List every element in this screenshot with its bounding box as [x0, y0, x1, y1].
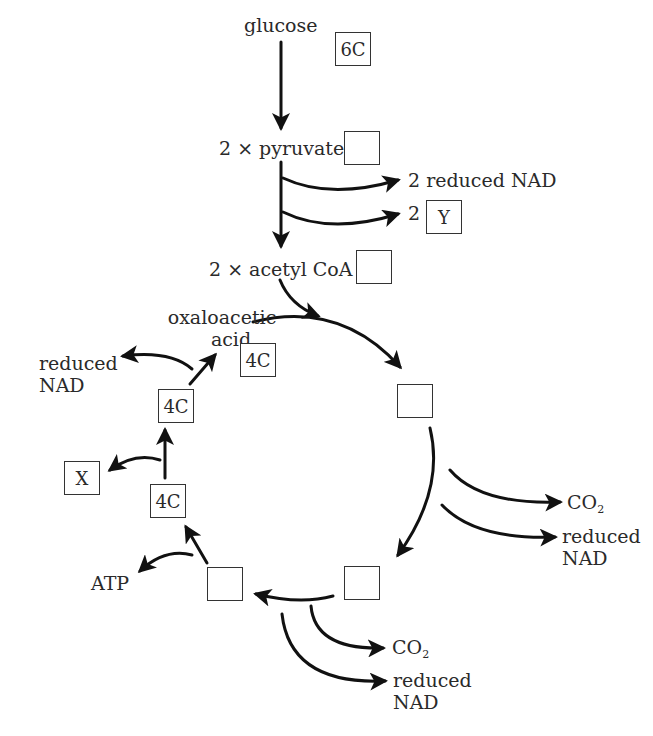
arrow-to-lower-4c [186, 527, 207, 563]
arrow-to-atp [140, 553, 192, 571]
acetyl-coa-label: 2 × acetyl CoA [209, 258, 352, 280]
x-box: X [64, 461, 100, 495]
pyruvate-carbon-box[interactable] [344, 131, 380, 165]
arrow-to-y [283, 212, 398, 224]
arrow-cycle-bottom [256, 594, 333, 600]
link-y-prefix: 2 [408, 202, 420, 224]
pyruvate-label: 2 × pyruvate [219, 137, 344, 159]
bottom-nad-line1: reduced [393, 669, 472, 691]
bottom-reduced-nad-label: reduced NAD [393, 669, 472, 713]
cycle-bottom-left-box[interactable] [207, 567, 243, 601]
arrow-bottom-co2 [311, 606, 383, 648]
right-reduced-nad-label: reduced NAD [562, 525, 641, 569]
right-nad-line1: reduced [562, 525, 641, 547]
arrow-cycle-right [398, 428, 434, 555]
bottom-nad-line2: NAD [393, 691, 472, 713]
arrow-right-reduced-nad [442, 505, 555, 537]
glucose-carbon-box: 6C [335, 32, 371, 66]
cycle-upper-4c-box: 4C [158, 389, 194, 423]
link-reduced-nad-label: 2 reduced NAD [408, 169, 557, 191]
arrow-acetyl-into-cycle [280, 280, 318, 316]
cycle-bottom-right-box[interactable] [344, 566, 380, 600]
bottom-co2-sub: 2 [422, 648, 429, 661]
left-reduced-nad-label: reduced NAD [39, 352, 118, 396]
left-nad-line2: NAD [39, 374, 118, 396]
arrow-right-co2 [450, 470, 560, 502]
glucose-label: glucose [244, 14, 318, 36]
atp-label: ATP [91, 572, 129, 594]
oxaloacetic-carbon-box: 4C [240, 343, 276, 377]
right-co2-main: CO [567, 491, 597, 513]
bottom-co2-label: CO2 [392, 636, 429, 666]
right-co2-label: CO2 [567, 491, 604, 521]
arrow-to-oxaloacetic [190, 355, 215, 384]
right-co2-sub: 2 [597, 503, 604, 516]
left-nad-line1: reduced [39, 352, 118, 374]
cycle-top-right-box[interactable] [397, 384, 433, 418]
y-box: Y [426, 200, 462, 234]
arrow-to-x [110, 458, 160, 470]
acetyl-coa-carbon-box[interactable] [356, 250, 392, 284]
arrow-to-reduced-nad [283, 178, 398, 190]
right-nad-line2: NAD [562, 547, 641, 569]
bottom-co2-main: CO [392, 636, 422, 658]
arrow-left-reduced-nad [123, 355, 192, 369]
cycle-lower-4c-box: 4C [150, 484, 186, 518]
oxaloacetic-line1: oxaloacetic [162, 306, 282, 328]
